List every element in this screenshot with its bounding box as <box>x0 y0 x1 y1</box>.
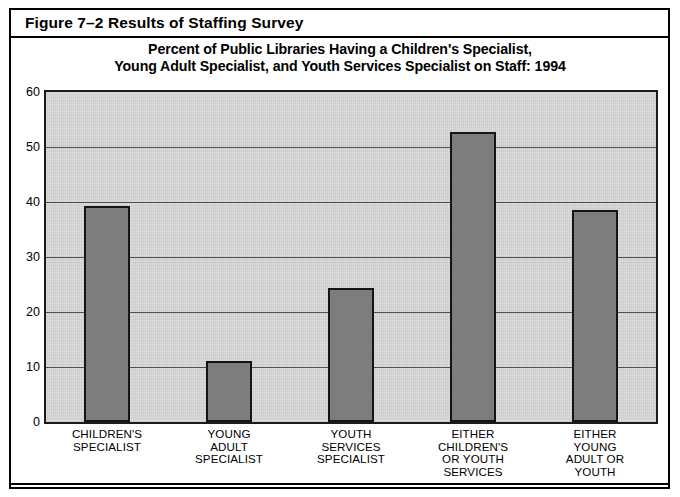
x-axis-label: EITHERCHILDREN'SOR YOUTHSERVICES <box>412 428 534 478</box>
chart-title-line-1: Percent of Public Libraries Having a Chi… <box>20 41 660 58</box>
x-axis-label: EITHERYOUNGADULT ORYOUTH <box>534 428 656 478</box>
y-tick-label-60: 60 <box>14 85 40 99</box>
y-tick-label-30: 30 <box>14 250 40 264</box>
bar <box>328 288 374 422</box>
bar <box>84 206 130 422</box>
x-axis-label: CHILDREN'SSPECIALIST <box>46 428 168 453</box>
plot-wrap <box>44 90 658 424</box>
bar <box>572 210 618 422</box>
x-axis-category-labels: CHILDREN'SSPECIALISTYOUNGADULTSPECIALIST… <box>44 428 658 480</box>
x-axis-label: YOUTHSERVICESSPECIALIST <box>290 428 412 466</box>
gridline-50 <box>46 147 656 148</box>
x-axis-label-line: SPECIALIST <box>46 441 168 454</box>
y-tick-label-10: 10 <box>14 360 40 374</box>
x-axis-label-line: EITHER <box>534 428 656 441</box>
x-axis-label-line: ADULT OR <box>534 453 656 466</box>
y-tick-label-40: 40 <box>14 195 40 209</box>
y-tick-label-0: 0 <box>14 415 40 429</box>
figure-header: Figure 7–2 Results of Staffing Survey <box>11 10 668 38</box>
x-axis-label-line: SERVICES <box>412 466 534 479</box>
x-axis-label-line: CHILDREN'S <box>46 428 168 441</box>
x-axis-label-line: YOUTH <box>534 466 656 479</box>
figure-bottom-rule <box>11 483 668 485</box>
chart-title: Percent of Public Libraries Having a Chi… <box>20 41 660 75</box>
plot-area <box>44 90 658 424</box>
gridline-30 <box>46 257 656 258</box>
y-axis-tick-labels: 0102030405060 <box>12 90 40 424</box>
bar <box>450 132 496 422</box>
y-tick-label-50: 50 <box>14 140 40 154</box>
chart-title-line-2: Young Adult Specialist, and Youth Servic… <box>20 58 660 75</box>
x-axis-label: YOUNGADULTSPECIALIST <box>168 428 290 466</box>
x-axis-label-line: SPECIALIST <box>168 453 290 466</box>
figure-root: Figure 7–2 Results of Staffing Survey Pe… <box>0 0 680 497</box>
bar <box>206 361 252 422</box>
x-axis-label-line: SPECIALIST <box>290 453 412 466</box>
x-axis-label-line: OR YOUTH <box>412 453 534 466</box>
gridline-40 <box>46 202 656 203</box>
figure-caption: Figure 7–2 Results of Staffing Survey <box>11 14 303 32</box>
x-axis-label-line: EITHER <box>412 428 534 441</box>
y-tick-label-20: 20 <box>14 305 40 319</box>
x-axis-label-line: YOUTH <box>290 428 412 441</box>
x-axis-label-line: YOUNG <box>168 428 290 441</box>
